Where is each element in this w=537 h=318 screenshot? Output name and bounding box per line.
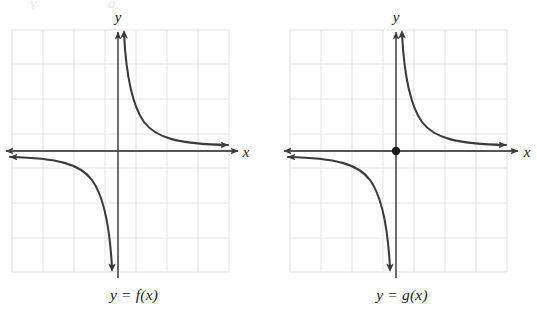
origin-point-g <box>392 147 400 155</box>
caption-f: y = f(x) <box>0 286 292 304</box>
curve-g-lower-branch <box>288 157 390 268</box>
curve-f-lower-branch <box>10 157 112 268</box>
figure-root: y g <box>0 0 537 318</box>
y-axis-label-g: y <box>391 9 400 25</box>
y-axis-label-f: y <box>113 9 122 25</box>
curve-g-upper-branch <box>402 34 506 145</box>
graph-panel-g: y x y = g(x) <box>268 0 536 318</box>
caption-g: y = g(x) <box>268 286 537 304</box>
x-axis-label-f: x <box>242 144 250 160</box>
x-axis-label-g: x <box>523 144 531 160</box>
curve-f-upper-branch <box>124 34 228 145</box>
graph-svg-g: y x <box>268 0 536 290</box>
graph-panel-f: y x y = f(x) <box>0 0 268 318</box>
graph-svg-f: y x <box>0 0 268 290</box>
